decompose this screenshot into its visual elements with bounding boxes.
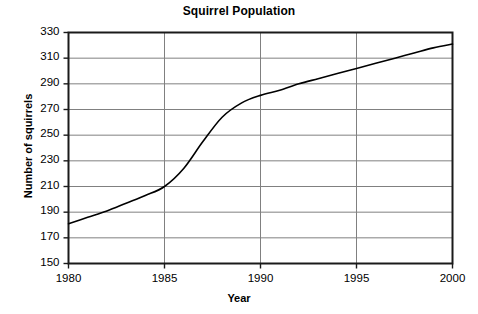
y-tick-label: 210 — [20, 179, 60, 191]
axis-ticks — [64, 33, 453, 269]
plot-area — [0, 0, 478, 314]
x-tick-label: 1980 — [44, 272, 94, 284]
y-tick-label: 190 — [20, 204, 60, 216]
vertical-gridlines — [165, 33, 357, 264]
x-tick-label: 1995 — [332, 272, 382, 284]
y-tick-label: 290 — [20, 76, 60, 88]
y-tick-label: 330 — [20, 25, 60, 37]
y-tick-label: 310 — [20, 50, 60, 62]
y-tick-label: 270 — [20, 102, 60, 114]
chart-figure: Squirrel Population Number of squirrels … — [0, 0, 478, 314]
x-tick-label: 1985 — [140, 272, 190, 284]
y-tick-label: 250 — [20, 127, 60, 139]
y-tick-label: 150 — [20, 256, 60, 268]
y-tick-label: 230 — [20, 153, 60, 165]
x-tick-label: 1990 — [236, 272, 286, 284]
x-tick-label: 2000 — [428, 272, 478, 284]
y-tick-label: 170 — [20, 230, 60, 242]
